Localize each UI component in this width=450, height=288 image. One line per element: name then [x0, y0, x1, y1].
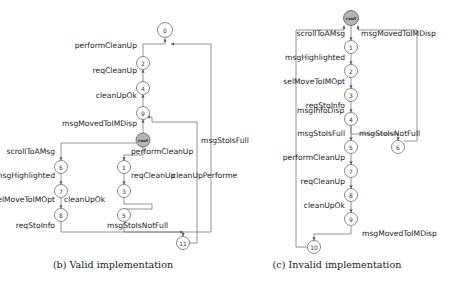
transition-label: msgInfoDisp: [297, 106, 344, 115]
transition-label: scrollToAMsg: [297, 29, 346, 38]
transition-label: msgHighlighted: [285, 53, 345, 62]
transition-label: scrollToAMsg: [7, 147, 56, 156]
state-node-7[interactable]: 7: [345, 165, 358, 178]
transition-label: reqCleanUp: [131, 171, 176, 180]
state-node-root[interactable]: root: [344, 11, 359, 26]
node-label: root: [346, 16, 356, 21]
node-label: 0: [163, 27, 167, 34]
edge-labels-layer: performCleanUpreqCleanUpcleanUpOkmsgMove…: [0, 29, 437, 238]
transition-label: msgMovedToIMDisp: [62, 119, 137, 128]
state-node-11[interactable]: 11: [177, 237, 190, 250]
node-label: 7: [59, 188, 63, 195]
state-node-0[interactable]: 0: [158, 23, 173, 38]
figure-container: 0249root67813511root12345789610 performC…: [0, 0, 450, 288]
edge-m9-to-m10: [314, 226, 351, 241]
state-node-10[interactable]: 10: [308, 241, 321, 254]
node-label: 1: [349, 44, 353, 51]
state-node-3[interactable]: 3: [345, 89, 358, 102]
transition-label: msgMovedToIMDisp: [361, 29, 436, 38]
node-label: 9: [141, 110, 145, 117]
edge-n3-to-n5: [124, 198, 152, 210]
node-label: root: [138, 138, 148, 143]
transition-label: msgMovedToIMDisp: [362, 229, 437, 238]
node-label: 7: [349, 168, 353, 175]
transition-label: cleanUpPerforme: [172, 171, 238, 180]
transition-label: cleanUpOk: [304, 201, 346, 210]
node-label: 4: [349, 116, 353, 123]
state-node-8[interactable]: 8: [345, 189, 358, 202]
state-diagrams-svg: 0249root67813511root12345789610 performC…: [0, 0, 450, 288]
transition-label: cleanUpOk: [64, 195, 106, 204]
node-label: 2: [141, 60, 145, 67]
state-node-1[interactable]: 1: [345, 41, 358, 54]
transition-label: reqCleanUp: [301, 177, 346, 186]
transition-label: msgStoIsFull: [201, 136, 249, 145]
node-label: 1: [122, 164, 126, 171]
state-node-5[interactable]: 5: [118, 209, 131, 222]
state-node-4[interactable]: 4: [345, 113, 358, 126]
node-label: 8: [59, 212, 63, 219]
state-node-6[interactable]: 6: [392, 141, 405, 154]
state-node-9[interactable]: 9: [345, 213, 358, 226]
transition-label: selMoveToIMOpt: [283, 77, 345, 86]
node-label: 2: [349, 68, 353, 75]
state-node-9[interactable]: 9: [137, 107, 150, 120]
state-node-8[interactable]: 8: [55, 209, 68, 222]
node-label: 3: [122, 188, 126, 195]
panel-caption: (b) Valid implementation: [53, 259, 173, 270]
node-label: 8: [349, 192, 353, 199]
state-node-root[interactable]: root: [136, 133, 150, 147]
transition-label: selMoveToIMOpt: [0, 195, 55, 204]
transition-label: msgStoIsNotFull: [359, 129, 420, 138]
node-label: 4: [141, 85, 145, 92]
node-label: 5: [349, 144, 353, 151]
transition-label: reqStoInfo: [16, 221, 56, 230]
panel-caption: (c) Invalid implementation: [273, 259, 402, 270]
transition-label: msgStoIsFull: [297, 129, 345, 138]
transition-label: msgHighlighted: [0, 171, 55, 180]
transition-label: cleanUpOk: [96, 91, 138, 100]
captions-layer: (b) Valid implementation(c) Invalid impl…: [53, 259, 402, 270]
edge-m6-to-m-root: [358, 26, 417, 142]
node-label: 11: [179, 240, 187, 247]
node-label: 6: [59, 164, 63, 171]
transition-label: reqCleanUp: [93, 66, 138, 75]
node-label: 5: [122, 212, 126, 219]
state-node-3[interactable]: 3: [118, 185, 131, 198]
state-node-5[interactable]: 5: [345, 141, 358, 154]
state-node-2[interactable]: 2: [137, 57, 150, 70]
transition-label: msgStoIsNotFull: [107, 221, 168, 230]
state-node-2[interactable]: 2: [345, 65, 358, 78]
node-label: 6: [396, 144, 400, 151]
node-label: 3: [349, 92, 353, 99]
state-node-4[interactable]: 4: [137, 82, 150, 95]
node-label: 10: [310, 244, 318, 251]
state-node-1[interactable]: 1: [118, 161, 131, 174]
edge-n2-to-n0: [143, 39, 165, 57]
transition-label: performCleanUp: [75, 41, 137, 50]
node-label: 9: [349, 216, 353, 223]
transition-label: performCleanUp: [283, 153, 345, 162]
edge-nroot-to-n6: [61, 143, 136, 161]
state-node-6[interactable]: 6: [55, 161, 68, 174]
transition-label: performCleanUp: [131, 147, 193, 156]
